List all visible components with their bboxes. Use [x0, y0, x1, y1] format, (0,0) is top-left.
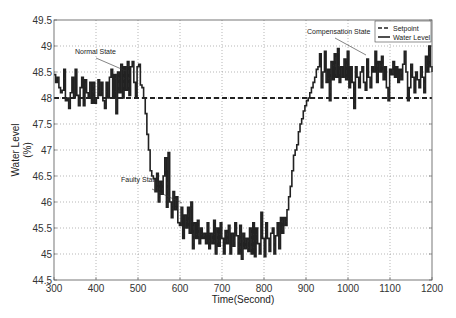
y-axis-label: Water Level (%)	[10, 124, 33, 177]
y-tick-label: 48.5	[33, 67, 53, 78]
y-tick-label: 48	[41, 93, 53, 104]
x-tick-label: 400	[88, 283, 105, 294]
x-tick-label: 700	[214, 283, 231, 294]
x-tick-label: 1000	[337, 283, 360, 294]
water-level-line	[54, 46, 432, 259]
x-tick-label: 300	[46, 283, 63, 294]
y-tick-label: 49.5	[33, 15, 53, 26]
x-tick-label: 900	[298, 283, 315, 294]
annotation-normal-state: Normal State	[75, 48, 116, 55]
y-axis-label-line2: (%)	[22, 142, 33, 158]
x-axis-ticks: 300400500600700800900100011001200	[46, 277, 444, 294]
x-tick-label: 1100	[379, 283, 401, 294]
y-tick-label: 46.5	[33, 171, 53, 182]
legend-setpoint-label: Setpoint	[393, 25, 419, 33]
y-axis-label-line1: Water Level	[10, 124, 21, 177]
x-tick-label: 600	[172, 283, 189, 294]
legend: Setpoint Water Level	[375, 21, 431, 42]
y-tick-label: 45.5	[33, 223, 53, 234]
y-tick-label: 47.5	[33, 119, 53, 130]
y-tick-label: 49	[41, 41, 53, 52]
water-level-series	[54, 46, 432, 259]
annotation-faulty-state: Faulty State	[121, 176, 158, 184]
legend-water-level-label: Water Level	[393, 34, 431, 41]
x-tick-label: 800	[256, 283, 273, 294]
annotation-compensation-state: Compensation State	[307, 28, 371, 36]
y-tick-label: 46	[41, 197, 53, 208]
x-tick-label: 1200	[421, 283, 444, 294]
y-tick-label: 45	[41, 249, 53, 260]
y-tick-label: 47	[41, 145, 53, 156]
x-tick-label: 500	[130, 283, 147, 294]
x-axis-label: Time(Second)	[212, 294, 274, 305]
water-level-chart: 44.54545.54646.54747.54848.54949.5 30040…	[0, 0, 456, 318]
